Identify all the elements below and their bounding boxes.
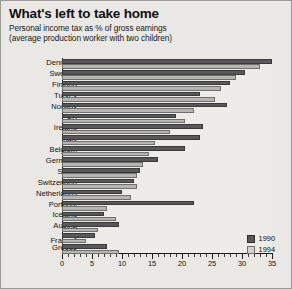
- x-tick-major: [272, 254, 273, 259]
- bar-row: Germany: [1, 156, 291, 167]
- x-tick-minor: [110, 254, 111, 257]
- x-tick-major: [152, 254, 153, 259]
- bar-ireland-1990: [62, 124, 203, 129]
- x-tick-minor: [176, 254, 177, 257]
- bar-row: Belgium: [1, 145, 291, 156]
- x-tick-label: 15: [148, 259, 156, 268]
- bar-row: UK: [1, 112, 291, 123]
- bar-row: Switzerland: [1, 178, 291, 189]
- bar-sweden-1990: [62, 70, 245, 75]
- x-tick-minor: [266, 254, 267, 257]
- x-tick-minor: [98, 254, 99, 257]
- bar-greece-1990: [62, 244, 107, 249]
- bar-row: Italy: [1, 134, 291, 145]
- x-tick-label: 5: [90, 259, 94, 268]
- x-tick-label: 35: [268, 259, 276, 268]
- bar-uk-1990: [62, 114, 176, 119]
- x-tick-minor: [260, 254, 261, 257]
- x-tick-minor: [68, 254, 69, 257]
- page-title: What's left to take home: [9, 6, 285, 21]
- bar-row: Turkey: [1, 91, 291, 102]
- x-tick-major: [182, 254, 183, 259]
- legend-label-1990: 1990: [259, 235, 275, 243]
- x-tick-minor: [140, 254, 141, 257]
- bar-netherlands-1990: [62, 190, 122, 195]
- bar-row: Iceland: [1, 210, 291, 221]
- x-tick-minor: [164, 254, 165, 257]
- x-tick-minor: [206, 254, 207, 257]
- bar-spain-1990: [62, 168, 140, 173]
- x-tick-minor: [146, 254, 147, 257]
- bar-row: Finland: [1, 80, 291, 91]
- legend-label-1994: 1994: [259, 246, 275, 254]
- chart-subtitle-line-1: Personal income tax as % of gross earnin…: [9, 23, 285, 33]
- x-tick-minor: [218, 254, 219, 257]
- x-tick-major: [122, 254, 123, 259]
- x-tick-minor: [134, 254, 135, 257]
- x-tick-label: 30: [238, 259, 246, 268]
- x-tick-label: 0: [60, 259, 64, 268]
- bar-greece-1994: [62, 250, 119, 255]
- x-tick-minor: [74, 254, 75, 257]
- bar-row: Netherlands: [1, 189, 291, 200]
- bar-france-1990: [62, 233, 95, 238]
- x-tick-major: [92, 254, 93, 259]
- bar-denmark-1990: [62, 59, 272, 64]
- bar-iceland-1990: [62, 212, 104, 217]
- x-tick-minor: [200, 254, 201, 257]
- x-tick-minor: [194, 254, 195, 257]
- chart-subtitle-line-2: (average production worker with two chil…: [9, 33, 285, 43]
- x-tick-minor: [86, 254, 87, 257]
- chart-legend: 19901994: [247, 235, 275, 254]
- legend-swatch-1994: [247, 246, 255, 254]
- bar-belgium-1990: [62, 146, 185, 151]
- x-tick-minor: [128, 254, 129, 257]
- bar-row: Denmark: [1, 58, 291, 69]
- x-tick-minor: [188, 254, 189, 257]
- x-tick-minor: [80, 254, 81, 257]
- x-tick-minor: [230, 254, 231, 257]
- x-tick-minor: [254, 254, 255, 257]
- x-tick-minor: [116, 254, 117, 257]
- bar-row: Ireland: [1, 123, 291, 134]
- x-tick-label: 20: [178, 259, 186, 268]
- x-tick-minor: [170, 254, 171, 257]
- bar-row: Norway: [1, 102, 291, 113]
- legend-item-1990[interactable]: 1990: [247, 235, 275, 243]
- legend-item-1994[interactable]: 1994: [247, 246, 275, 254]
- x-tick-minor: [104, 254, 105, 257]
- x-tick-major: [212, 254, 213, 259]
- chart-header: What's left to take home Personal income…: [9, 6, 285, 43]
- x-tick-label: 10: [118, 259, 126, 268]
- bar-portugal-1990: [62, 201, 194, 206]
- bar-row: Austria: [1, 221, 291, 232]
- x-axis-ticks: 05101520253035: [62, 254, 273, 270]
- bar-row: Portugal: [1, 200, 291, 211]
- bar-row: Sweden: [1, 69, 291, 80]
- x-tick-minor: [248, 254, 249, 257]
- x-tick-label: 25: [208, 259, 216, 268]
- x-tick-minor: [158, 254, 159, 257]
- bar-italy-1990: [62, 135, 200, 140]
- bar-row: Spain: [1, 167, 291, 178]
- bar-turkey-1990: [62, 92, 200, 97]
- bar-austria-1990: [62, 222, 119, 227]
- x-tick-major: [62, 254, 63, 259]
- chart-figure: What's left to take home Personal income…: [0, 0, 292, 289]
- bar-norway-1990: [62, 103, 227, 108]
- x-tick-major: [242, 254, 243, 259]
- x-tick-minor: [236, 254, 237, 257]
- bar-finland-1990: [62, 81, 230, 86]
- bar-germany-1990: [62, 157, 158, 162]
- legend-swatch-1990: [247, 235, 255, 243]
- bar-switzerland-1990: [62, 179, 134, 184]
- x-tick-minor: [224, 254, 225, 257]
